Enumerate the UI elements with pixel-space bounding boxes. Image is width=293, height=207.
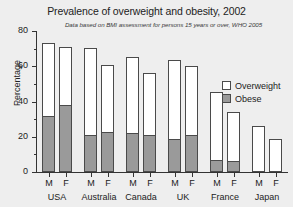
x-tick-label-sex: F [223, 178, 245, 188]
x-tick-label-sex: F [139, 178, 161, 188]
bar-uk-m [168, 60, 181, 172]
bar-france-f [227, 112, 240, 172]
bar-uk-f [185, 66, 198, 172]
bar-usa-m [42, 43, 55, 172]
x-tick-label-sex: F [55, 178, 77, 188]
bar-canada-m [126, 57, 139, 172]
x-tick-label-sex: F [181, 178, 203, 188]
x-tick [259, 173, 260, 177]
legend-item-overweight: Overweight [222, 79, 281, 92]
bar-segment-obese [42, 116, 55, 172]
bar-segment-obese [101, 132, 114, 172]
y-tick-label: 20 [8, 132, 28, 141]
bar-segment-obese [126, 133, 139, 172]
bar-segment-obese [84, 135, 97, 172]
x-group-label-japan: Japan [227, 192, 293, 202]
chart-legend: Overweight Obese [222, 79, 281, 105]
bar-canada-f [143, 73, 156, 172]
bar-segment-obese [59, 105, 72, 172]
legend-label-obese: Obese [235, 94, 262, 104]
y-tick-label: 0 [8, 167, 28, 176]
chart-figure: Prevalence of overweight and obesity, 20… [0, 0, 293, 207]
x-tick [108, 173, 109, 177]
x-axis-line [36, 172, 288, 173]
chart-subtitle: Data based on BMI assessment for persons… [36, 21, 291, 28]
x-tick [217, 173, 218, 177]
y-axis-label: Percentage [12, 38, 22, 128]
bar-segment-obese [168, 139, 181, 172]
y-tick-label: 40 [8, 97, 28, 106]
legend-swatch-overweight-icon [222, 81, 231, 90]
chart-title: Prevalence of overweight and obesity, 20… [0, 5, 293, 17]
bar-segment-obese [185, 135, 198, 172]
x-tick [49, 173, 50, 177]
bar-australia-f [101, 65, 114, 173]
legend-swatch-obese-icon [222, 94, 231, 103]
legend-label-overweight: Overweight [235, 81, 281, 91]
x-tick-label-sex: F [265, 178, 287, 188]
x-tick [66, 173, 67, 177]
bar-japan-f [269, 139, 282, 172]
x-tick [234, 173, 235, 177]
bar-usa-f [59, 47, 72, 172]
legend-item-obese: Obese [222, 92, 281, 105]
bar-australia-m [84, 48, 97, 172]
bar-segment-obese [143, 135, 156, 172]
x-tick-label-sex: F [97, 178, 119, 188]
x-tick [276, 173, 277, 177]
x-tick [192, 173, 193, 177]
x-tick [91, 173, 92, 177]
y-tick-major [32, 172, 36, 173]
y-tick-label: 60 [8, 61, 28, 70]
bar-segment-obese [210, 160, 223, 172]
y-tick-label: 80 [8, 26, 28, 35]
x-tick [175, 173, 176, 177]
bar-japan-m [252, 126, 265, 172]
x-tick [133, 173, 134, 177]
bar-segment-obese [227, 161, 240, 172]
x-tick [150, 173, 151, 177]
